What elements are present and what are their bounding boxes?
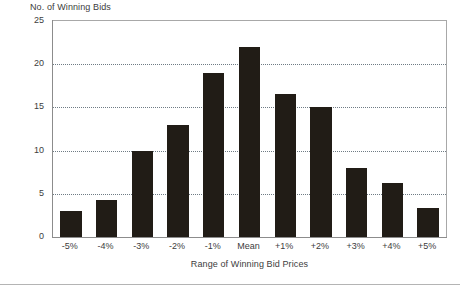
bar-plus-2: [310, 107, 331, 237]
x-tick-label: Mean: [237, 241, 260, 251]
y-tick-label: 10: [22, 145, 44, 154]
y-tick-label: 15: [22, 102, 44, 111]
y-tick-label: 25: [22, 16, 44, 25]
x-tick-label: -4%: [98, 241, 114, 251]
x-tick-label: +4%: [382, 241, 400, 251]
y-axis-title: No. of Winning Bids: [30, 2, 111, 12]
y-tick-label: 5: [22, 188, 44, 197]
x-tick-label: -5%: [62, 241, 78, 251]
x-tick-label: +1%: [275, 241, 293, 251]
y-tick-label: 20: [22, 59, 44, 68]
bar-minus-4: [96, 200, 117, 237]
bar-plus-5: [417, 208, 438, 237]
bar-plus-1: [275, 94, 296, 237]
plot-area: [52, 20, 447, 238]
x-tick-label: -1%: [205, 241, 221, 251]
x-axis-title: Range of Winning Bid Prices: [52, 259, 447, 269]
y-axis-tick-labels: 0 5 10 15 20 25: [22, 20, 48, 238]
x-tick-label: -3%: [133, 241, 149, 251]
bar-minus-5: [60, 211, 81, 237]
bar-chart-figure: No. of Winning Bids 0 5 10 15 20 25 -5% …: [0, 0, 460, 296]
x-tick-label: +3%: [347, 241, 365, 251]
x-axis-tick-labels: -5% -4% -3% -2% -1% Mean +1% +2% +3% +4%…: [52, 241, 447, 257]
bar-series: [53, 21, 446, 237]
y-tick-label: 0: [22, 232, 44, 241]
x-tick-label: -2%: [169, 241, 185, 251]
x-tick-label: +2%: [311, 241, 329, 251]
bar-minus-1: [203, 73, 224, 237]
x-tick-label: +5%: [418, 241, 436, 251]
bar-plus-4: [382, 183, 403, 237]
bar-minus-2: [167, 125, 188, 237]
bar-plus-3: [346, 168, 367, 237]
bar-minus-3: [132, 151, 153, 237]
bar-mean: [239, 47, 260, 237]
bottom-divider: [0, 284, 460, 285]
